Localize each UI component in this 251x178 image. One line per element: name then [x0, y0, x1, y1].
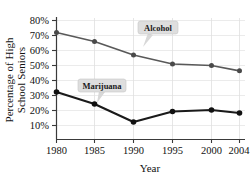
alcohol-point-1980	[54, 30, 59, 35]
x-axis-title: Year	[140, 162, 161, 174]
ytick-label-80: 80%	[30, 15, 50, 26]
ytick-label-50: 50%	[30, 60, 50, 71]
xtick-label-2004: 2004	[229, 145, 251, 156]
alcohol-point-1990	[131, 53, 136, 58]
marijuana-callout-label: Marijuana	[82, 81, 122, 91]
marijuana-point-2000	[209, 107, 215, 113]
xtick-label-1985: 1985	[84, 145, 105, 156]
chart-container: 80% 70% 60% 50% 40% 30% 20% 10% 1980 198…	[0, 0, 250, 178]
alcohol-point-1985	[92, 39, 97, 44]
ytick-label-10: 10%	[30, 120, 50, 131]
marijuana-point-1985	[92, 101, 98, 107]
marijuana-point-1995	[170, 109, 176, 115]
ytick-label-20: 20%	[30, 105, 50, 116]
ytick-label-60: 60%	[30, 45, 50, 56]
ytick-label-40: 40%	[30, 75, 50, 86]
xtick-label-2000: 2000	[201, 145, 222, 156]
ytick-label-30: 30%	[30, 90, 50, 101]
marijuana-point-1980	[54, 89, 60, 95]
marijuana-point-2004	[237, 110, 243, 116]
xtick-label-1980: 1980	[46, 145, 67, 156]
alcohol-point-2000	[209, 63, 214, 68]
alcohol-point-1995	[170, 62, 175, 67]
alcohol-point-2004	[237, 68, 242, 73]
ytick-label-70: 70%	[30, 30, 50, 41]
line-chart: 80% 70% 60% 50% 40% 30% 20% 10% 1980 198…	[0, 0, 250, 178]
y-axis-title-line1: Percentage of High	[3, 37, 15, 122]
y-axis-title-line2: School Seniors	[15, 47, 27, 113]
alcohol-callout-label: Alcohol	[144, 23, 173, 33]
xtick-label-1995: 1995	[162, 145, 183, 156]
marijuana-point-1990	[131, 119, 137, 125]
xtick-label-1990: 1990	[123, 145, 144, 156]
y-axis-title: Percentage of High School Seniors	[3, 37, 27, 122]
